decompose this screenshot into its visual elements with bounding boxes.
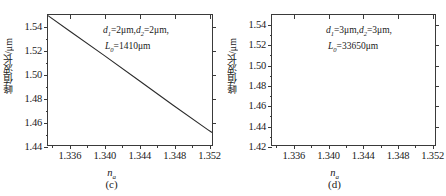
y-tick-label-c-1: 1.46: [24, 118, 42, 129]
y-tick-minor-c-4: [46, 39, 49, 40]
x-tick-top-c-4: [210, 15, 211, 19]
x-tick-label-c-1: 1.340: [93, 151, 116, 162]
x-tick-minor-c-2: [122, 145, 123, 148]
y-tick-d-0: [268, 147, 272, 148]
x-tick-d-1: [329, 145, 330, 149]
x-tick-d-2: [363, 145, 364, 149]
x-tick-minor-c-1: [87, 145, 88, 148]
x-tick-label-c-4: 1.352: [198, 151, 221, 162]
annotation-c-d1-val: =2μm,: [111, 25, 136, 35]
x-tick-top-d-2: [363, 15, 364, 19]
x-tick-minor-d-4: [415, 145, 416, 148]
y-tick-minor-d-5: [270, 35, 273, 36]
x-tick-c-4: [210, 145, 211, 149]
annotation-d-d1-val: =3μm,: [334, 25, 359, 35]
y-tick-label-c-5: 1.54: [24, 21, 42, 32]
figure-container: 峰值波长/μm 1.44 1.46 1.48: [0, 0, 446, 196]
panel-caption-c: (c): [0, 179, 223, 190]
x-tick-d-3: [398, 145, 399, 149]
x-tick-minor-d-2: [346, 145, 347, 148]
y-tick-label-c-4: 1.52: [24, 45, 42, 56]
y-axis-title-c: 峰值波长/μm: [3, 38, 17, 94]
y-tick-minor-d-2: [270, 96, 273, 97]
x-tick-minor-d-3: [381, 145, 382, 148]
x-tick-c-1: [105, 145, 106, 149]
panel-d: 峰值波长/μm 1.42: [223, 0, 446, 196]
y-tick-right-d-6: [435, 25, 439, 26]
y-tick-label-d-3: 1.48: [248, 81, 266, 92]
y-tick-label-c-2: 1.48: [24, 94, 42, 105]
plot-area-c: 1.44 1.46 1.48 1.50 1.52 1.54: [47, 14, 213, 146]
x-tick-top-d-4: [433, 15, 434, 19]
y-tick-minor-c-3: [46, 63, 49, 64]
x-tick-label-d-4: 1.352: [421, 151, 444, 162]
x-tick-top-d-3: [398, 15, 399, 19]
x-tick-minor-d-0: [276, 145, 277, 148]
y-tick-c-5: [44, 27, 48, 28]
y-tick-minor-d-0: [270, 137, 273, 138]
annotation-d-line1: d1=3μm,d2=3μm,: [326, 24, 392, 40]
x-tick-label-d-1: 1.340: [317, 151, 340, 162]
y-tick-c-2: [44, 99, 48, 100]
plot-area-d: 1.42 1.44 1.46 1.48 1.50 1.52 1.54: [271, 14, 436, 146]
y-tick-d-5: [268, 45, 272, 46]
x-tick-d-0: [294, 145, 295, 149]
panel-caption-d: (d): [223, 179, 446, 190]
x-tick-label-c-0: 1.336: [59, 151, 82, 162]
y-tick-right-c-5: [212, 27, 216, 28]
y-tick-label-d-2: 1.46: [248, 101, 266, 112]
y-tick-label-d-0: 1.42: [248, 142, 266, 153]
y-tick-right-d-4: [435, 66, 439, 67]
x-tick-label-d-0: 1.336: [282, 151, 305, 162]
y-tick-c-1: [44, 123, 48, 124]
x-tick-top-c-1: [105, 15, 106, 19]
x-tick-label-d-3: 1.348: [387, 151, 410, 162]
x-tick-c-0: [70, 145, 71, 149]
y-tick-right-d-2: [435, 106, 439, 107]
y-tick-right-c-1: [212, 123, 216, 124]
x-tick-top-c-3: [175, 15, 176, 19]
x-tick-minor-c-4: [192, 145, 193, 148]
y-tick-label-d-4: 1.50: [248, 60, 266, 71]
x-tick-top-d-1: [329, 15, 330, 19]
y-tick-minor-c-1: [46, 111, 49, 112]
y-tick-minor-c-0: [46, 135, 49, 136]
y-tick-minor-d-4: [270, 55, 273, 56]
annotation-d-L-val: =33650μm: [337, 41, 379, 51]
x-tick-label-c-3: 1.348: [163, 151, 186, 162]
x-tick-label-d-2: 1.344: [352, 151, 375, 162]
y-tick-right-c-2: [212, 99, 216, 100]
annotation-c-L-val: =1410μm: [114, 41, 151, 51]
y-tick-label-d-6: 1.54: [248, 19, 266, 30]
y-tick-right-d-1: [435, 127, 439, 128]
y-tick-d-6: [268, 25, 272, 26]
y-tick-d-2: [268, 106, 272, 107]
x-tick-top-c-2: [140, 15, 141, 19]
y-tick-minor-d-3: [270, 76, 273, 77]
x-tick-c-3: [175, 145, 176, 149]
x-tick-minor-d-1: [311, 145, 312, 148]
x-tick-top-c-0: [70, 15, 71, 19]
x-tick-c-2: [140, 145, 141, 149]
y-axis-title-d: 峰值波长/μm: [227, 38, 241, 94]
x-tick-minor-c-3: [157, 145, 158, 148]
annotation-d-d2-val: =3μm,: [367, 25, 392, 35]
y-tick-minor-c-2: [46, 87, 49, 88]
y-tick-c-0: [44, 147, 48, 148]
y-tick-d-3: [268, 86, 272, 87]
y-tick-label-d-5: 1.52: [248, 40, 266, 51]
y-tick-d-4: [268, 66, 272, 67]
y-tick-c-4: [44, 51, 48, 52]
y-tick-c-3: [44, 75, 48, 76]
annotation-c-line2: L0=1410μm: [103, 40, 169, 56]
y-tick-right-d-5: [435, 45, 439, 46]
annotation-c: d1=2μm,d2=2μm, L0=1410μm: [103, 24, 169, 56]
y-tick-minor-d-1: [270, 116, 273, 117]
annotation-d: d1=3μm,d2=3μm, L0=33650μm: [326, 24, 392, 56]
y-tick-right-c-4: [212, 51, 216, 52]
y-tick-d-1: [268, 127, 272, 128]
y-tick-label-c-0: 1.44: [24, 142, 42, 153]
y-tick-right-c-3: [212, 75, 216, 76]
x-tick-minor-c-0: [52, 145, 53, 148]
x-tick-label-c-2: 1.344: [128, 151, 151, 162]
